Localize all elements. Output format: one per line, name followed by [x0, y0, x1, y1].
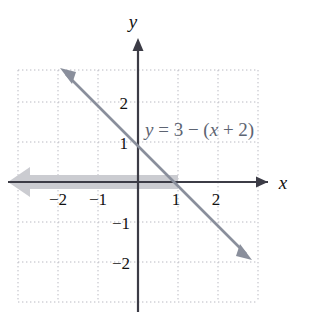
y-tick-label-2: 2 — [120, 94, 129, 113]
x-tick-label-1: 1 — [172, 190, 181, 209]
graph-figure: y x −2 −1 1 2 2 1 −1 −2 y = 3 − (x + 2) — [0, 0, 314, 322]
x-axis-label: x — [278, 172, 288, 193]
x-tick-label-2: 2 — [212, 190, 221, 209]
equation-annotation: y = 3 − (x + 2) — [143, 119, 254, 141]
x-axis-arrowhead-icon — [256, 177, 268, 188]
x-tick-label-neg1: −1 — [89, 190, 107, 209]
equation-part-y: y — [143, 119, 154, 140]
equation-part-mid: = 3 − ( — [153, 119, 209, 141]
equation-part-end: + 2) — [218, 119, 254, 141]
function-line — [60, 68, 252, 260]
y-tick-label-1: 1 — [120, 134, 129, 153]
x-tick-label-neg2: −2 — [49, 190, 67, 209]
function-line-segment — [66, 74, 246, 254]
y-tick-label-neg1: −1 — [112, 214, 130, 233]
y-axis-label: y — [127, 11, 138, 32]
y-tick-label-neg2: −2 — [112, 254, 130, 273]
y-axis-arrowhead-icon — [133, 38, 144, 51]
coordinate-plane-svg: y x −2 −1 1 2 2 1 −1 −2 y = 3 − (x + 2) — [0, 0, 314, 322]
